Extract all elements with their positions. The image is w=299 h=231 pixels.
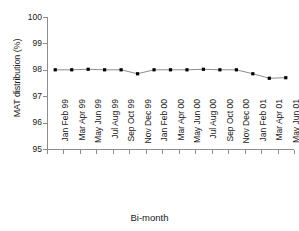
x-tick-label: Jan Feb 01 bbox=[258, 99, 269, 155]
data-point bbox=[185, 68, 188, 71]
x-tick-label: Mar Apr 00 bbox=[176, 99, 187, 155]
data-point bbox=[251, 72, 254, 75]
data-point bbox=[284, 76, 287, 79]
series-markers bbox=[54, 68, 288, 80]
x-tick-label: Mar Apr 99 bbox=[77, 99, 88, 155]
x-tick-label: Jul Aug 00 bbox=[208, 99, 219, 155]
x-tick-label: Nov Dec 99 bbox=[143, 99, 154, 155]
x-tick-label: Nov Dec 00 bbox=[241, 99, 252, 155]
data-point bbox=[87, 68, 90, 71]
data-point bbox=[120, 68, 123, 71]
data-point bbox=[268, 77, 271, 80]
y-tick-label: 99 bbox=[18, 39, 42, 48]
data-point bbox=[218, 68, 221, 71]
y-tick-mark bbox=[43, 123, 47, 124]
y-axis-title: MAT distribution (%) bbox=[8, 3, 26, 153]
x-tick-label: May Jun 00 bbox=[192, 99, 203, 155]
y-tick-mark bbox=[43, 43, 47, 44]
x-tick-label: May Jun 01 bbox=[291, 99, 299, 155]
series-line bbox=[55, 69, 286, 78]
y-tick-label: 100 bbox=[18, 13, 42, 22]
data-point bbox=[152, 68, 155, 71]
data-point bbox=[70, 68, 73, 71]
y-tick-label: 98 bbox=[18, 65, 42, 74]
data-point bbox=[169, 68, 172, 71]
data-point bbox=[136, 72, 139, 75]
x-tick-label: May Jun 99 bbox=[93, 99, 104, 155]
y-axis-line bbox=[47, 17, 48, 150]
x-tick-label: Mar Apr 01 bbox=[274, 99, 285, 155]
y-tick-label: 96 bbox=[18, 118, 42, 127]
chart-container: MAT distribution (%) 9596979899100 Jan F… bbox=[0, 0, 299, 231]
data-point bbox=[202, 68, 205, 71]
x-axis-title: Bi-month bbox=[0, 212, 299, 223]
data-point bbox=[54, 68, 57, 71]
y-tick-label: 95 bbox=[18, 145, 42, 154]
x-tick-label: Jan Feb 99 bbox=[60, 99, 71, 155]
x-tick-label: Jul Aug 99 bbox=[110, 99, 121, 155]
data-point bbox=[103, 68, 106, 71]
y-tick-label: 97 bbox=[18, 92, 42, 101]
x-tick-label: Sep Oct 00 bbox=[225, 99, 236, 155]
x-tick-mark bbox=[47, 150, 48, 154]
y-tick-mark bbox=[43, 96, 47, 97]
x-tick-label: Jan Feb 00 bbox=[159, 99, 170, 155]
y-tick-mark bbox=[43, 70, 47, 71]
data-point bbox=[235, 68, 238, 71]
x-tick-label: Sep Oct 99 bbox=[126, 99, 137, 155]
y-tick-mark bbox=[43, 17, 47, 18]
